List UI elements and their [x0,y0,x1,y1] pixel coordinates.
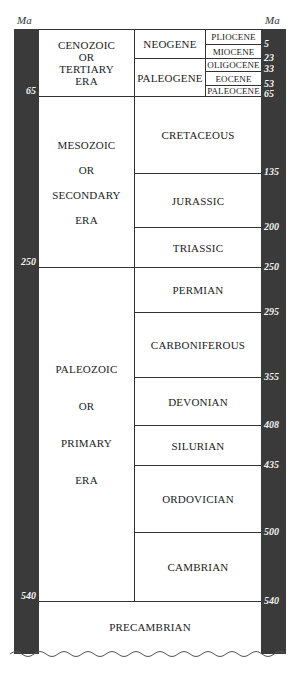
period-cambrian: CAMBRIAN [135,533,261,601]
ma-unit-label-right: Ma [265,14,280,26]
period-paleogene: PALEOGENE [135,59,205,96]
right-tick-540: 540 [264,596,279,606]
geologic-time-table: CENOZOIC OR TERTIARY ERA MESOZOIC OR SEC… [39,29,261,656]
era-cenozoic: CENOZOIC OR TERTIARY ERA [39,30,134,96]
wavy-bottom-edge [10,648,290,660]
era-paleozoic-line-4: ERA [75,474,98,486]
left-tick-540: 540 [21,591,36,601]
epoch-oligocene: OLIGOCENE [206,59,261,71]
era-cenozoic-line-4: ERA [75,75,98,87]
precambrian-block: PRECAMBRIAN [39,602,261,652]
era-cenozoic-line-3: TERTIARY [59,63,114,75]
right-tick-500: 500 [264,527,279,537]
era-mesozoic-line-1: MESOZOIC [58,139,116,151]
period-ordovician: ORDOVICIAN [135,466,261,532]
ma-unit-label-left: Ma [17,14,32,26]
left-tick-250: 250 [21,257,36,267]
period-permian: PERMIAN [135,268,261,312]
right-tick-200: 200 [264,222,279,232]
era-paleozoic-line-1: PALEOZOIC [56,363,118,375]
epoch-eocene: EOCENE [206,72,261,85]
period-neogene: NEOGENE [135,30,205,58]
left-tick-65: 65 [26,86,36,96]
era-paleozoic-line-3: PRIMARY [61,437,112,449]
era-paleozoic-line-2: OR [79,400,95,412]
period-carboniferous: CARBONIFEROUS [135,313,261,377]
right-tick-295: 295 [264,307,279,317]
period-triassic: TRIASSIC [135,228,261,267]
right-tick-33: 33 [264,64,274,74]
era-cenozoic-line-1: CENOZOIC [58,39,115,51]
epoch-miocene: MIOCENE [206,45,261,58]
era-cenozoic-line-2: OR [79,51,95,63]
era-mesozoic-line-3: SECONDARY [52,189,120,201]
era-mesozoic-line-4: ERA [75,214,98,226]
epoch-pliocene: PLIOCENE [206,30,261,44]
right-tick-23: 23 [264,53,274,63]
right-tick-250: 250 [264,262,279,272]
right-tick-65: 65 [264,89,274,99]
era-mesozoic-line-2: OR [79,164,95,176]
period-devonian: DEVONIAN [135,378,261,425]
period-silurian: SILURIAN [135,426,261,465]
era-mesozoic: MESOZOIC OR SECONDARY ERA [39,97,134,267]
right-tick-135: 135 [264,167,279,177]
era-paleozoic: PALEOZOIC OR PRIMARY ERA [39,268,134,601]
right-tick-435: 435 [264,460,279,470]
period-jurassic: JURASSIC [135,174,261,227]
right-time-bar: 5 23 33 53 65 135 200 250 295 355 408 43… [261,29,286,653]
left-time-bar: 65 250 540 [14,29,39,653]
right-tick-5: 5 [264,39,269,49]
epoch-paleocene: PALEOCENE [206,86,261,96]
right-tick-355: 355 [264,372,279,382]
right-tick-408: 408 [264,420,279,430]
period-cretaceous: CRETACEOUS [135,97,261,173]
